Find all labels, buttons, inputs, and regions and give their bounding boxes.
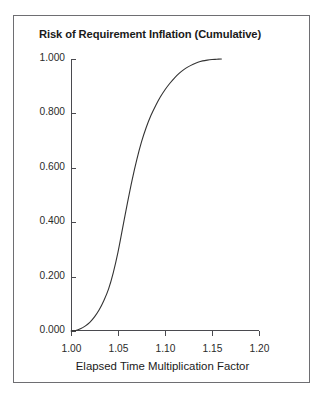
y-tick-label: 0.000 (40, 324, 66, 335)
y-tick-label: 1.000 (40, 52, 66, 63)
y-tick-label: 0.200 (40, 270, 66, 281)
figure-frame: Risk of Requirement Inflation (Cumulativ… (13, 15, 310, 383)
x-tick: 1.00 (71, 331, 72, 336)
x-tick: 1.10 (165, 331, 166, 336)
chart-title: Risk of Requirement Inflation (Cumulativ… (39, 28, 299, 40)
y-tick-label: 0.400 (40, 215, 66, 226)
cumulative-risk-curve (71, 59, 259, 331)
x-tick-label: 1.10 (156, 343, 176, 354)
y-tick-label: 0.600 (40, 161, 66, 172)
x-tick: 1.15 (212, 331, 213, 336)
x-tick: 1.20 (259, 331, 260, 336)
x-tick-label: 1.00 (62, 343, 82, 354)
cumulative-risk-curve-path (71, 59, 221, 331)
x-tick: 1.05 (118, 331, 119, 336)
y-tick-label: 0.800 (40, 106, 66, 117)
x-tick-label: 1.15 (203, 343, 223, 354)
x-tick-label: 1.20 (250, 343, 270, 354)
x-axis-title: Elapsed Time Multiplication Factor (14, 360, 311, 372)
plot-area: 0.0000.2000.4000.6000.8001.000 1.001.051… (71, 59, 259, 331)
x-tick-label: 1.05 (109, 343, 129, 354)
